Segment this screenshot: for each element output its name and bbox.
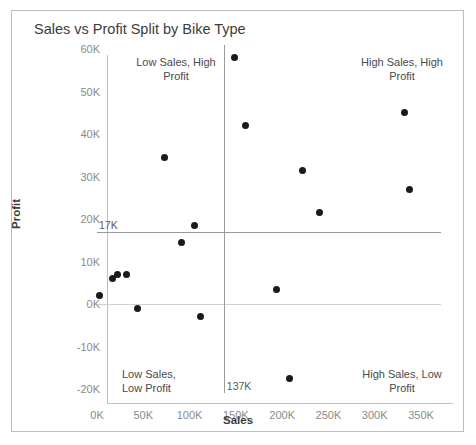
data-point[interactable] (401, 109, 408, 116)
reference-line-label-profit: 17K (99, 219, 118, 231)
data-point[interactable] (191, 222, 198, 229)
y-axis-tick-label: 30K (50, 171, 100, 183)
data-point[interactable] (123, 271, 130, 278)
reference-line-label-sales: 137K (227, 380, 252, 392)
y-axis-tick-label: 10K (50, 256, 100, 268)
data-point[interactable] (273, 286, 280, 293)
zero-reference-line (97, 304, 441, 305)
data-point[interactable] (96, 292, 103, 299)
y-axis-tick-label: 0K (50, 298, 100, 310)
x-axis-title: Sales (0, 414, 476, 426)
y-axis-title: Profit (10, 199, 22, 229)
y-axis-tick-label: 40K (50, 128, 100, 140)
data-point[interactable] (242, 122, 249, 129)
data-point[interactable] (178, 239, 185, 246)
annotation-low-sales-high-profit: Low Sales, High Profit (116, 55, 236, 83)
data-point[interactable] (406, 186, 413, 193)
chart-card: Sales vs Profit Split by Bike Type 60K50… (11, 10, 464, 432)
data-point[interactable] (316, 209, 323, 216)
data-point[interactable] (161, 154, 168, 161)
data-point[interactable] (299, 167, 306, 174)
y-axis-tick-label: 60K (50, 43, 100, 55)
reference-line-vertical (224, 45, 225, 393)
chart-title: Sales vs Profit Split by Bike Type (34, 21, 246, 37)
x-axis-line (107, 403, 453, 404)
y-axis-tick-label: 50K (50, 86, 100, 98)
y-axis-tick-label: -10K (50, 341, 100, 353)
y-axis-tick-label: 20K (50, 213, 100, 225)
data-point[interactable] (114, 271, 121, 278)
data-point[interactable] (134, 305, 141, 312)
annotation-high-sales-high-profit: High Sales, High Profit (342, 55, 462, 83)
reference-line-horizontal (97, 232, 441, 233)
data-point[interactable] (286, 375, 293, 382)
y-axis-tick-label: -20K (50, 383, 100, 395)
data-point[interactable] (197, 313, 204, 320)
annotation-high-sales-low-profit: High Sales, Low Profit (342, 367, 462, 395)
